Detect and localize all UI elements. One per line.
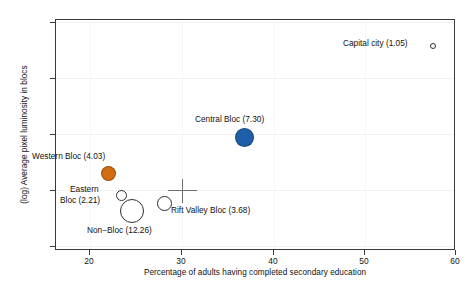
gridline-y-neg2 xyxy=(56,190,454,191)
gridline-x-20 xyxy=(90,20,91,249)
gridline-y-0 xyxy=(56,134,454,135)
label-central-bloc: Central Bloc (7.30) xyxy=(195,114,264,124)
label-capital-city: Capital city (1.05) xyxy=(343,38,408,48)
data-point-western-bloc[interactable] xyxy=(101,166,116,181)
data-point-capital-city[interactable] xyxy=(430,43,436,49)
gridline-y-4 xyxy=(56,22,454,23)
x-tick-mark-30 xyxy=(181,250,182,255)
gridline-x-50 xyxy=(365,20,366,249)
data-point-central-bloc[interactable] xyxy=(235,128,254,147)
gridline-y-2 xyxy=(56,78,454,79)
x-tick-mark-20 xyxy=(89,250,90,255)
x-tick-label-30: 30 xyxy=(161,256,201,266)
x-tick-mark-60 xyxy=(455,250,456,255)
scatter-plot-figure: (log) Average pixel luminosity in blocs … xyxy=(0,0,476,286)
x-tick-label-40: 40 xyxy=(253,256,293,266)
x-tick-label-50: 50 xyxy=(344,256,384,266)
x-tick-mark-40 xyxy=(273,250,274,255)
gridline-x-40 xyxy=(274,20,275,249)
label-eastern-bloc-line1: Eastern xyxy=(70,184,99,194)
crosshair-vertical-icon xyxy=(182,179,183,203)
crosshair-horizontal-icon xyxy=(168,190,197,191)
x-tick-label-20: 20 xyxy=(69,256,109,266)
plot-area: Capital city (1.05) Central Bloc (7.30) … xyxy=(55,19,455,250)
label-eastern-bloc-line2: Bloc (2.21) xyxy=(60,195,100,205)
y-axis-title: (log) Average pixel luminosity in blocs xyxy=(20,15,29,255)
data-point-rift-valley-bloc[interactable] xyxy=(157,196,172,211)
label-rift-valley-bloc: Rift Valley Bloc (3.68) xyxy=(171,205,250,215)
label-non-bloc: Non−Bloc (12.26) xyxy=(87,225,152,235)
x-tick-label-60: 60 xyxy=(435,256,475,266)
x-tick-mark-50 xyxy=(364,250,365,255)
gridline-y-neg4 xyxy=(56,246,454,247)
data-point-eastern-bloc[interactable] xyxy=(116,190,127,201)
label-western-bloc: Western Bloc (4.03) xyxy=(32,151,105,161)
x-axis-title: Percentage of adults having completed se… xyxy=(55,268,455,277)
data-point-non-bloc[interactable] xyxy=(120,199,144,223)
